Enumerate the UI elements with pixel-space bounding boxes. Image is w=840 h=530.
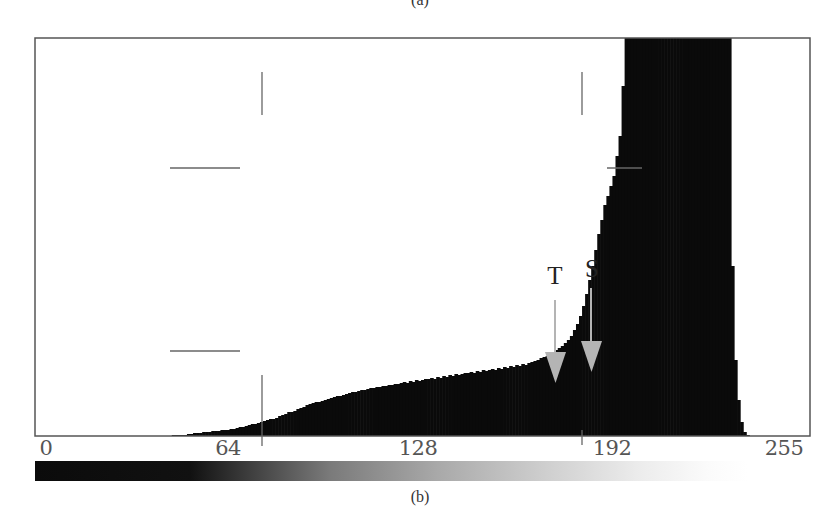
threshold-s-label: S	[585, 256, 599, 282]
x-tick-255: 255	[765, 436, 804, 460]
grayscale-colorbar	[35, 461, 810, 481]
x-tick-64: 64	[215, 436, 241, 460]
caption-b: (b)	[0, 488, 840, 506]
x-tick-128: 128	[399, 436, 438, 460]
threshold-t-label: T	[547, 263, 562, 289]
x-tick-192: 192	[593, 436, 632, 460]
histogram-bars	[172, 38, 750, 436]
x-tick-0: 0	[40, 436, 53, 460]
